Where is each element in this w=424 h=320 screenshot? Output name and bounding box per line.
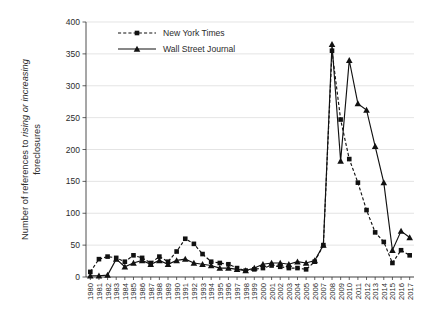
line-chart: 050100150200250300350400 198019811982198… — [0, 0, 424, 320]
y-tick-label: 250 — [66, 113, 80, 123]
data-point-marker — [338, 117, 343, 122]
series-line — [90, 51, 409, 272]
series-nyt — [88, 48, 412, 274]
data-point-marker — [407, 253, 412, 258]
legend-label: Wall Street Journal — [163, 44, 235, 54]
data-point-marker — [131, 253, 136, 258]
y-axis-title: Number of references to rising or increa… — [20, 58, 42, 240]
data-point-marker — [192, 242, 197, 247]
data-point-marker — [294, 258, 301, 264]
y-tick-label: 0 — [75, 272, 80, 282]
data-point-marker — [217, 261, 222, 266]
data-point-marker — [399, 248, 404, 253]
y-tick-label: 400 — [66, 17, 80, 27]
series-wsj — [87, 41, 413, 278]
data-point-marker — [398, 228, 405, 234]
y-tick-label: 300 — [66, 81, 80, 91]
data-point-marker — [390, 261, 395, 266]
legend-item-nyt: New York Times — [118, 28, 225, 38]
data-point-marker — [191, 260, 198, 266]
data-point-marker — [337, 158, 344, 164]
data-point-marker — [97, 257, 102, 262]
legend-label: New York Times — [163, 28, 225, 38]
y-axis-title-line: Number of references to rising or increa… — [20, 58, 30, 240]
y-tick-label: 350 — [66, 49, 80, 59]
legend-item-wsj: Wall Street Journal — [118, 44, 235, 54]
x-tickmarks-group — [90, 277, 409, 280]
x-tick-label: 2017 — [406, 283, 415, 300]
data-point-marker — [346, 57, 353, 63]
y-tickmarks-group — [83, 22, 87, 277]
data-point-marker — [105, 254, 110, 259]
chart-container: 050100150200250300350400 198019811982198… — [0, 0, 424, 320]
data-point-marker — [182, 256, 189, 262]
x-tick-labels-group: 1980198119821983198419851986198719881989… — [86, 283, 414, 300]
y-tick-label: 100 — [66, 208, 80, 218]
data-point-marker — [380, 179, 387, 185]
y-tick-label: 50 — [71, 240, 81, 250]
data-point-marker — [135, 31, 140, 36]
data-point-marker — [295, 266, 300, 271]
y-axis-title-line: foreclosures — [32, 124, 42, 175]
data-point-marker — [123, 259, 128, 264]
data-point-marker — [329, 41, 336, 47]
data-point-marker — [389, 247, 396, 253]
series-line — [90, 44, 409, 275]
data-point-marker — [251, 265, 258, 271]
gridlines-group — [86, 22, 414, 277]
y-tick-label: 150 — [66, 176, 80, 186]
data-point-marker — [356, 180, 361, 185]
data-point-marker — [381, 240, 386, 245]
data-point-marker — [311, 257, 318, 263]
data-point-marker — [139, 257, 146, 263]
data-point-marker — [372, 143, 379, 149]
data-point-marker — [113, 256, 120, 262]
data-point-marker — [183, 236, 188, 241]
y-tick-labels-group: 050100150200250300350400 — [66, 17, 80, 282]
data-series-group — [87, 41, 413, 278]
data-point-marker — [364, 208, 369, 213]
data-point-marker — [174, 249, 179, 254]
data-point-marker — [165, 261, 172, 267]
y-tick-label: 200 — [66, 145, 80, 155]
data-point-marker — [373, 230, 378, 235]
data-point-marker — [200, 252, 205, 257]
chart-legend: New York TimesWall Street Journal — [118, 28, 235, 54]
data-point-marker — [304, 267, 309, 272]
data-point-marker — [347, 157, 352, 162]
data-point-marker — [355, 100, 362, 106]
